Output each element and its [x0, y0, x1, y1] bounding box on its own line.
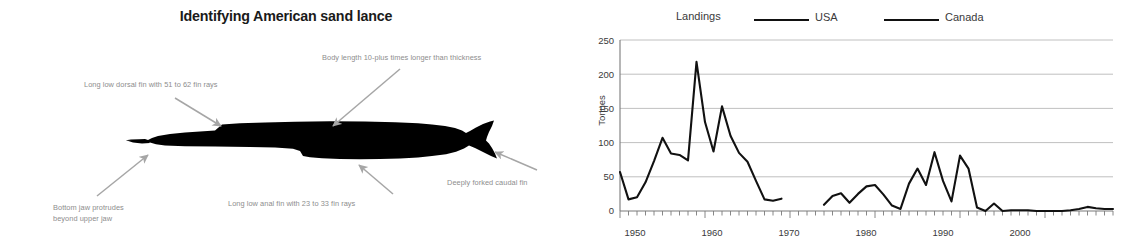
- x-minor-ticks: [620, 211, 1113, 218]
- landings-plot: [572, 0, 1127, 249]
- landings-chart-panel: Landings USA Canada Tonnes 250 200 150 1…: [572, 0, 1127, 249]
- annotation-caudal-fin: Deeply forked caudal fin: [447, 178, 528, 189]
- annotation-dorsal-fin: Long low dorsal fin with 51 to 62 fin ra…: [84, 80, 218, 91]
- series-line-usa: [620, 62, 782, 201]
- annotation-body-length: Body length 10-plus times longer than th…: [322, 53, 481, 64]
- annotation-anal-fin: Long low anal fin with 23 to 33 fin rays: [228, 199, 355, 210]
- series-line-usa: [824, 152, 1113, 211]
- sand-lance-diagram-panel: Identifying American sand lance Long low…: [0, 0, 572, 249]
- annotation-bottom-jaw: Bottom jaw protrudes beyond upper jaw: [53, 203, 124, 224]
